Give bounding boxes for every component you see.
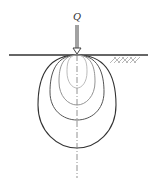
load-label: Q bbox=[73, 10, 81, 22]
soil-hatch-icon bbox=[110, 57, 140, 63]
load-arrow-icon bbox=[73, 25, 81, 54]
pressure-bulb-diagram: Q bbox=[0, 0, 153, 182]
